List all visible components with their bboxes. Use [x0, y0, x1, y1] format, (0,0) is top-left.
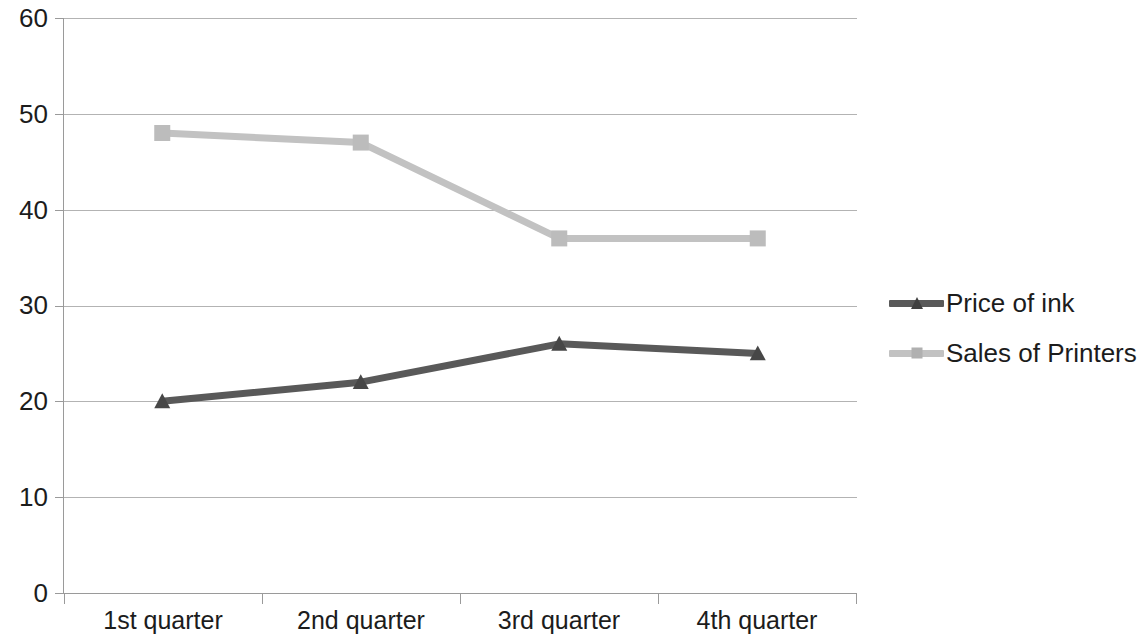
gridline-20	[63, 401, 857, 402]
plot-area	[63, 18, 857, 593]
x-axis-label-4th-quarter: 4th quarter	[658, 608, 856, 633]
chart-legend: Price of ink Sales of Printers	[889, 278, 1139, 378]
y-axis-label-0: 0	[0, 580, 48, 606]
gridline-30	[63, 306, 857, 307]
y-axis-label-60: 60	[0, 5, 48, 31]
square-marker-icon	[910, 346, 924, 360]
gridline-60	[63, 18, 857, 19]
y-tick-mark-40	[55, 210, 63, 211]
y-axis-label-10: 10	[0, 484, 48, 510]
y-tick-mark-30	[55, 306, 63, 307]
gridline-40	[63, 210, 857, 211]
y-tick-mark-0	[55, 593, 63, 594]
x-tick-mark-3	[658, 593, 659, 604]
x-axis-label-2nd-quarter: 2nd quarter	[262, 608, 460, 633]
triangle-marker-icon	[910, 296, 924, 310]
x-axis-label-3rd-quarter: 3rd quarter	[460, 608, 658, 633]
y-tick-mark-50	[55, 114, 63, 115]
x-tick-mark-2	[460, 593, 461, 604]
gridline-50	[63, 114, 857, 115]
x-axis-label-1st-quarter: 1st quarter	[64, 608, 262, 633]
y-axis-label-40: 40	[0, 197, 48, 223]
line-chart: 60 50 40 30 20 10 0 1st quarter 2nd quar…	[0, 0, 1139, 643]
legend-entry-price-of-ink[interactable]: Price of ink	[889, 278, 1139, 328]
x-tick-mark-4	[856, 593, 857, 604]
y-axis-label-30: 30	[0, 292, 48, 318]
legend-label-price-of-ink: Price of ink	[946, 290, 1075, 316]
y-tick-mark-20	[55, 401, 63, 402]
y-axis-label-50: 50	[0, 101, 48, 127]
y-tick-mark-60	[55, 18, 63, 19]
legend-swatch-sales-of-printers	[889, 342, 944, 364]
legend-label-sales-of-printers: Sales of Printers	[946, 340, 1137, 366]
y-axis-line	[63, 18, 64, 593]
x-tick-mark-0	[64, 593, 65, 604]
gridline-10	[63, 497, 857, 498]
y-tick-mark-10	[55, 497, 63, 498]
y-axis-label-20: 20	[0, 388, 48, 414]
legend-swatch-price-of-ink	[889, 292, 944, 314]
x-tick-mark-1	[262, 593, 263, 604]
legend-entry-sales-of-printers[interactable]: Sales of Printers	[889, 328, 1139, 378]
